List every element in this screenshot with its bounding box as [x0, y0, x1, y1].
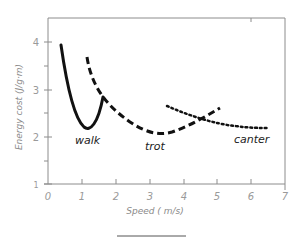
- plot-frame: [44, 18, 285, 190]
- y-tick-1: 1: [33, 181, 38, 190]
- x-tick-labels: 0 1 2 3 4 5 6 7: [45, 191, 289, 202]
- x-axis-title: Speed ( m/s): [126, 206, 183, 216]
- canter-label: canter: [234, 133, 271, 146]
- x-tick-6: 6: [248, 191, 254, 202]
- trot-label: trot: [145, 140, 166, 153]
- y-tick-labels: 1 2 3 4: [33, 37, 39, 190]
- x-tick-0: 0: [45, 191, 51, 202]
- canter-curve: [167, 106, 268, 128]
- y-tick-2: 2: [33, 132, 39, 143]
- y-tick-3: 3: [33, 85, 39, 96]
- x-tick-5: 5: [214, 191, 220, 202]
- walk-curve: [61, 45, 103, 128]
- trot-curve: [87, 57, 220, 134]
- x-tick-7: 7: [282, 191, 289, 202]
- x-tick-2: 2: [113, 191, 119, 202]
- x-tick-4: 4: [181, 191, 187, 202]
- x-tick-3: 3: [147, 191, 153, 202]
- y-tick-4: 4: [33, 37, 39, 48]
- energy-cost-chart: 1 2 3 4 0 1 2 3 4 5 6 7 Speed ( m/s) Ene…: [0, 0, 303, 247]
- walk-label: walk: [75, 134, 101, 147]
- y-axis-title: Energy cost (J/g·m): [14, 64, 24, 150]
- x-tick-1: 1: [79, 191, 85, 202]
